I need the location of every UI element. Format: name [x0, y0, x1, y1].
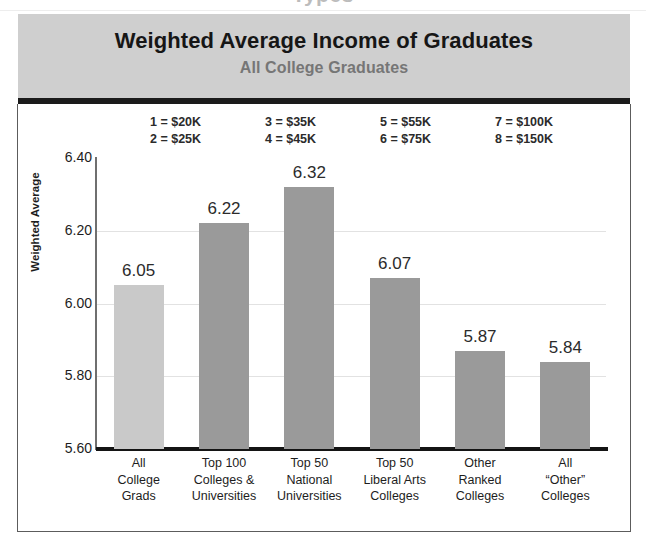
income-key-entry: 8 = $150K — [495, 131, 610, 148]
x-axis-category-line: Top 50 — [267, 455, 352, 472]
bar-slot: 5.87 — [455, 158, 505, 449]
income-scale-key: 1 = $20K2 = $25K3 = $35K4 = $45K5 = $55K… — [150, 114, 610, 150]
x-axis-category-line: Colleges — [437, 488, 522, 505]
bar-value-label: 5.84 — [518, 338, 612, 358]
x-axis-category-line: National — [267, 472, 352, 489]
x-axis-category-line: Universities — [267, 488, 352, 505]
x-axis-category-label: All“Other”Colleges — [523, 455, 608, 505]
bar[interactable] — [370, 278, 420, 449]
y-axis-tick-label: 6.40 — [40, 149, 92, 165]
bar[interactable] — [455, 351, 505, 449]
chart-subtitle: All College Graduates — [18, 59, 630, 77]
bar-slot: 6.32 — [284, 158, 334, 449]
x-axis-category-line: Top 100 — [181, 455, 266, 472]
x-axis-category-label: Top 50Liberal ArtsColleges — [352, 455, 437, 505]
clipped-top-text-ghost: Types — [0, 0, 646, 7]
bar[interactable] — [199, 223, 249, 449]
bar-slot: 6.05 — [114, 158, 164, 449]
bar-slot: 6.22 — [199, 158, 249, 449]
x-axis-category-labels: AllCollegeGradsTop 100Colleges &Universi… — [96, 455, 608, 515]
bar[interactable] — [284, 187, 334, 449]
top-hairline — [0, 10, 646, 11]
income-key-column-4: 7 = $100K8 = $150K — [495, 114, 610, 148]
x-axis-category-line: All — [96, 455, 181, 472]
x-axis-category-label: Top 100Colleges &Universities — [181, 455, 266, 505]
income-key-entry: 2 = $25K — [150, 131, 265, 148]
bar[interactable] — [114, 285, 164, 449]
x-axis-category-label: AllCollegeGrads — [96, 455, 181, 505]
bar-slot: 6.07 — [370, 158, 420, 449]
income-key-entry: 1 = $20K — [150, 114, 265, 131]
income-key-column-3: 5 = $55K6 = $75K — [380, 114, 495, 148]
income-key-column-1: 1 = $20K2 = $25K — [150, 114, 265, 148]
income-key-entry: 5 = $55K — [380, 114, 495, 131]
x-axis-category-line: All — [523, 455, 608, 472]
chart-title: Weighted Average Income of Graduates — [18, 28, 630, 54]
income-key-entry: 4 = $45K — [265, 131, 380, 148]
x-axis-category-line: Universities — [181, 488, 266, 505]
bar-series: 6.056.226.326.075.875.84 — [96, 158, 608, 449]
y-axis-tick-label: 6.00 — [40, 295, 92, 311]
x-axis-category-line: Colleges — [523, 488, 608, 505]
y-axis-tick-label: 5.60 — [40, 440, 92, 456]
chart-header-band: Weighted Average Income of Graduates All… — [18, 14, 630, 98]
clipped-top-text: Types — [0, 0, 646, 13]
x-axis-category-line: Grads — [96, 488, 181, 505]
x-axis-category-label: OtherRankedColleges — [437, 455, 522, 505]
x-axis-category-label: Top 50NationalUniversities — [267, 455, 352, 505]
x-axis-category-line: Top 50 — [352, 455, 437, 472]
income-key-entry: 6 = $75K — [380, 131, 495, 148]
x-axis-category-line: Colleges & — [181, 472, 266, 489]
x-axis-category-line: “Other” — [523, 472, 608, 489]
bar-value-label: 6.32 — [262, 163, 356, 183]
bar-value-label: 6.05 — [92, 261, 186, 281]
bar-value-label: 5.87 — [433, 327, 527, 347]
bar[interactable] — [540, 362, 590, 449]
x-axis-category-line: Ranked — [437, 472, 522, 489]
x-axis-category-line: Colleges — [352, 488, 437, 505]
bar-slot: 5.84 — [540, 158, 590, 449]
bar-value-label: 6.07 — [348, 254, 442, 274]
x-axis-category-line: Liberal Arts — [352, 472, 437, 489]
bar-value-label: 6.22 — [177, 199, 271, 219]
x-axis-category-line: Other — [437, 455, 522, 472]
income-key-entry: 3 = $35K — [265, 114, 380, 131]
chart-screenshot: Types Weighted Average Income of Graduat… — [0, 0, 646, 546]
y-axis-title: Weighted Average — [29, 142, 41, 302]
income-key-entry: 7 = $100K — [495, 114, 610, 131]
y-axis-tick-label: 6.20 — [40, 222, 92, 238]
x-axis-category-line: College — [96, 472, 181, 489]
y-axis-tick-label: 5.80 — [40, 367, 92, 383]
income-key-column-2: 3 = $35K4 = $45K — [265, 114, 380, 148]
